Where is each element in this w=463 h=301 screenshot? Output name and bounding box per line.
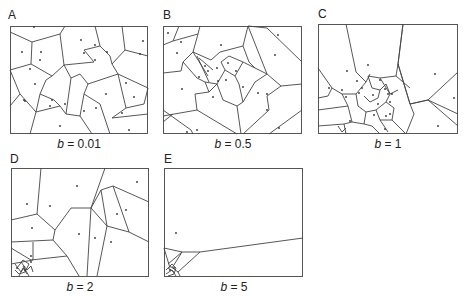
param-value: = 0.5 <box>225 137 252 151</box>
param-symbol: b <box>220 280 227 294</box>
param-value: = 1 <box>385 137 402 151</box>
caption-d: b = 2 <box>10 281 150 293</box>
voronoi-plot-b <box>163 26 302 134</box>
param-symbol: b <box>374 137 381 151</box>
param-value: = 2 <box>77 280 94 294</box>
voronoi-plot-c <box>318 24 458 134</box>
panel-letter-d: D <box>10 153 19 165</box>
voronoi-plot-a <box>10 26 148 134</box>
param-value: = 0.01 <box>67 137 101 151</box>
param-symbol: b <box>57 137 64 151</box>
panel-letter-b: B <box>163 9 171 21</box>
param-symbol: b <box>214 137 221 151</box>
caption-a: b = 0.01 <box>9 138 149 150</box>
param-value: = 5 <box>231 280 248 294</box>
panel-letter-a: A <box>8 9 16 21</box>
panel-letter-c: C <box>318 8 327 20</box>
caption-e: b = 5 <box>164 281 304 293</box>
voronoi-plot-e <box>164 168 303 277</box>
panel-letter-e: E <box>164 153 172 165</box>
voronoi-plot-d <box>11 168 149 277</box>
caption-c: b = 1 <box>318 138 458 150</box>
caption-b: b = 0.5 <box>163 138 303 150</box>
param-symbol: b <box>66 280 73 294</box>
